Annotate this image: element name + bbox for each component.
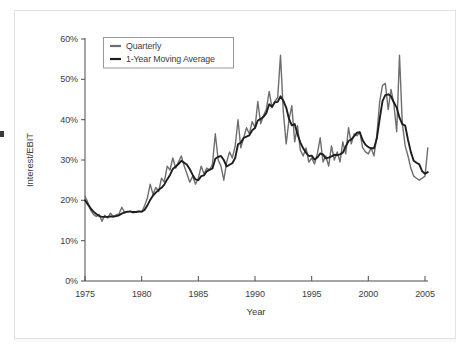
- x-axis-title: Year: [247, 306, 266, 317]
- x-tick-1980: 1980: [132, 289, 152, 299]
- legend-label-quarterly: Quarterly: [126, 41, 162, 51]
- y-axis-labels: 0% 10% 20% 30% 40% 50% 60%: [60, 34, 78, 286]
- line-chart: 0% 10% 20% 30% 40% 50% 60% 1975 1980 198…: [0, 0, 466, 350]
- y-tick-40: 40%: [60, 115, 78, 125]
- y-tick-20: 20%: [60, 195, 78, 205]
- y-axis-ticks: [81, 39, 85, 281]
- y-tick-0: 0%: [65, 276, 78, 286]
- x-axis-labels: 1975 1980 1985 1990 1995 2000 2005: [75, 289, 435, 299]
- y-tick-10: 10%: [60, 236, 78, 246]
- y-tick-60: 60%: [60, 34, 78, 44]
- x-tick-1990: 1990: [245, 289, 265, 299]
- legend: Quarterly 1-Year Moving Average: [104, 38, 234, 69]
- x-axis-ticks: [85, 276, 425, 281]
- x-tick-1985: 1985: [188, 289, 208, 299]
- x-tick-1995: 1995: [302, 289, 322, 299]
- page: 0% 10% 20% 30% 40% 50% 60% 1975 1980 198…: [0, 0, 466, 350]
- y-tick-30: 30%: [60, 155, 78, 165]
- x-tick-2005: 2005: [415, 289, 435, 299]
- y-tick-50: 50%: [60, 74, 78, 84]
- y-axis-title: Interest/EBIT: [24, 133, 35, 187]
- x-tick-2000: 2000: [358, 289, 378, 299]
- x-tick-1975: 1975: [75, 289, 95, 299]
- legend-label-moving-average: 1-Year Moving Average: [126, 54, 215, 64]
